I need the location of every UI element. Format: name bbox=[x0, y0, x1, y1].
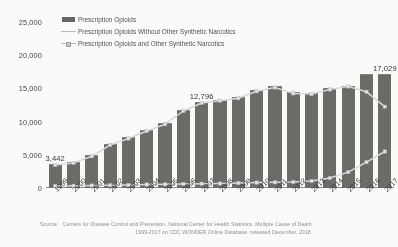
line-series-marker bbox=[310, 92, 313, 95]
line-series-marker bbox=[237, 97, 240, 100]
line-series-marker bbox=[347, 85, 350, 88]
line-series-marker bbox=[365, 90, 368, 93]
bar-data-label: 3,442 bbox=[45, 154, 65, 163]
y-axis-tick-label: 5,000 bbox=[2, 150, 42, 159]
source-note: Source: Centers for Disease Control and … bbox=[40, 221, 392, 236]
line-series-marker bbox=[383, 105, 386, 108]
line-series-marker bbox=[328, 88, 331, 91]
line-series-marker bbox=[72, 161, 75, 164]
line-series-marker bbox=[347, 170, 350, 173]
line-series-marker bbox=[310, 179, 313, 182]
x-axis: 1999200020012002200320042005200620072008… bbox=[46, 188, 394, 222]
source-line-2: 1999-2017 on CDC WONDER Online Database,… bbox=[40, 229, 392, 237]
line-series-overlay bbox=[46, 22, 394, 188]
line-series-marker bbox=[145, 129, 148, 132]
line-series-marker bbox=[383, 150, 386, 153]
line-series-marker bbox=[365, 160, 368, 163]
line-series-path bbox=[55, 87, 385, 166]
line-series-marker bbox=[200, 101, 203, 104]
y-axis-tick-label: 10,000 bbox=[2, 117, 42, 126]
line-series-marker bbox=[292, 92, 295, 95]
y-axis-tick-label: 15,000 bbox=[2, 84, 42, 93]
y-axis-tick-label: 0 bbox=[2, 184, 42, 193]
line-series-marker bbox=[54, 163, 57, 166]
bar-data-label: 17,029 bbox=[373, 64, 397, 73]
chart-page: Prescription Opioids Prescription Opioid… bbox=[0, 0, 398, 247]
line-series-marker bbox=[163, 123, 166, 126]
line-series-marker bbox=[255, 90, 258, 93]
line-series-marker bbox=[108, 143, 111, 146]
source-line-1: Centers for Disease Control and Preventi… bbox=[63, 221, 312, 227]
line-series-marker bbox=[182, 109, 185, 112]
y-axis: 05,00010,00015,00020,00025,000 bbox=[0, 0, 42, 247]
line-series-marker bbox=[218, 99, 221, 102]
line-series-marker bbox=[127, 137, 130, 140]
y-axis-tick-label: 25,000 bbox=[2, 18, 42, 27]
line-series-marker bbox=[328, 176, 331, 179]
source-prefix: Source: bbox=[40, 221, 58, 227]
line-series-marker bbox=[90, 155, 93, 158]
line-series-marker bbox=[273, 86, 276, 89]
plot-area: 3,44212,79617,029 bbox=[46, 22, 394, 188]
bar-data-label: 12,796 bbox=[190, 92, 214, 101]
y-axis-tick-label: 20,000 bbox=[2, 51, 42, 60]
